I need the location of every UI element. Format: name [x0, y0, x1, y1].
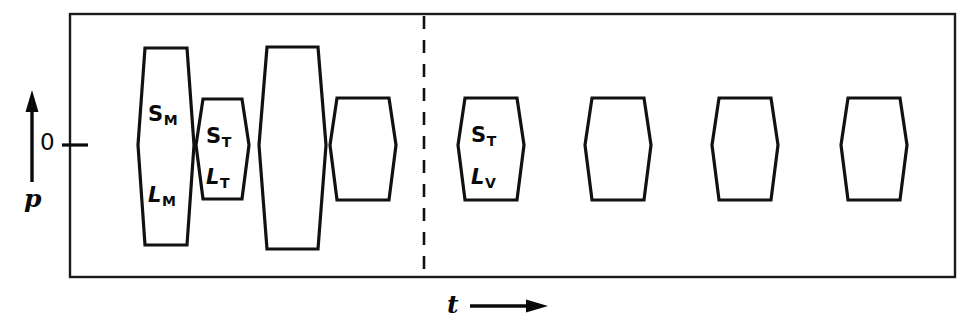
pulse-label-main: S [206, 124, 221, 148]
pulse-label: LT [206, 167, 230, 190]
pulse-label: ST [206, 126, 232, 149]
zero-axis-label: 0 [40, 131, 55, 154]
pulse-envelope [138, 48, 194, 245]
pulse-label-subscript: M [164, 112, 178, 128]
t-axis-arrow [470, 300, 548, 313]
pulse-envelope [330, 98, 396, 200]
pulse-label-subscript: M [162, 193, 176, 209]
pulse-sequence-figure: p 0 t SMLMSTLTSTLV [0, 0, 969, 335]
pulse-label-main: S [148, 102, 163, 126]
pulse-label: SM [148, 104, 178, 127]
pulse-envelope [712, 98, 778, 200]
pulse-label-subscript: T [222, 134, 232, 150]
pulse-label-main: L [148, 183, 162, 207]
pulse-envelope [841, 98, 907, 200]
pulse-label: LV [471, 167, 496, 190]
pulse-label-main: L [206, 165, 220, 189]
pulse-label-main: L [471, 165, 485, 189]
pulse-label: ST [471, 125, 497, 148]
pulse-envelope [259, 47, 326, 249]
pulse-envelope [585, 98, 651, 200]
pulse-label-main: S [471, 123, 486, 147]
pulse-envelopes-layer [138, 47, 907, 249]
pulse-label-subscript: V [485, 175, 496, 191]
pulse-label: LM [148, 185, 176, 208]
p-axis-arrow [26, 90, 39, 182]
pulse-label-subscript: T [220, 175, 230, 191]
x-axis-label: t [447, 292, 459, 317]
y-axis-label: p [24, 186, 41, 211]
pulse-label-subscript: T [487, 133, 497, 149]
